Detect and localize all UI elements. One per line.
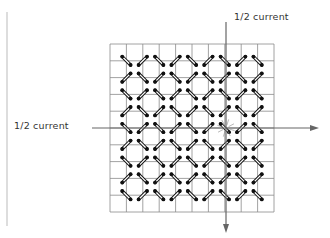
core-dot [211,80,215,84]
core-dot [120,88,124,92]
core-dot [235,97,239,101]
core-dot [194,164,198,168]
core-dot [235,164,239,168]
core-dot [244,181,248,185]
core-dot [137,130,141,134]
selected-core-burst [229,124,234,127]
core-dot [145,147,149,151]
core-dot [202,72,206,76]
core-dot [129,72,133,76]
core-dot [137,105,141,109]
core-dot [219,55,223,59]
core-dot [219,88,223,92]
core-dot [227,198,231,202]
selected-core-burst [229,129,235,131]
arrow-down-icon [223,224,229,233]
core-dot [194,63,198,67]
core-dot [170,72,174,76]
core-dot [202,130,206,134]
core-dot [235,72,239,76]
core-dot [260,63,264,67]
core-dot [260,164,264,168]
core-dot [260,198,264,202]
core-dot [153,156,157,160]
core-dot [145,88,149,92]
core-dot [145,156,149,160]
core-dot [244,114,248,118]
core-dot [170,198,174,202]
core-dot [129,164,133,168]
core-dot [202,172,206,176]
core-dot [235,198,239,202]
core-dot [178,88,182,92]
core-dot [129,198,133,202]
core-dot [202,164,206,168]
core-dot [244,88,248,92]
core-dot [227,164,231,168]
core-dot [186,156,190,160]
core-dot [202,139,206,143]
core-dot [129,63,133,67]
core-dot [219,189,223,193]
core-dot [194,130,198,134]
core-dot [211,189,215,193]
core-dot [186,122,190,126]
core-dot [162,97,166,101]
core-dot [252,80,256,84]
core-dot [153,181,157,185]
core-dot [129,139,133,143]
core-dot [129,97,133,101]
core-dot [260,172,264,176]
core-dot [219,122,223,126]
core-dot [120,181,124,185]
core-dot [227,72,231,76]
core-dot [120,156,124,160]
core-dot [186,114,190,118]
core-dot [162,172,166,176]
core-dot [235,139,239,143]
core-dot [170,63,174,67]
core-dot [170,97,174,101]
core-dot [153,189,157,193]
core-grid [0,0,330,238]
core-dot [202,198,206,202]
core-dot [129,172,133,176]
core-dot [153,88,157,92]
core-dot [227,139,231,143]
core-dot [186,55,190,59]
core-dot [162,164,166,168]
core-dot [120,55,124,59]
core-dot [244,189,248,193]
core-dot [252,88,256,92]
core-dot [219,114,223,118]
core-dot [252,114,256,118]
core-dot [252,189,256,193]
core-dot [120,147,124,151]
core-dot [178,156,182,160]
core-dot [211,147,215,151]
core-dot [137,63,141,67]
core-dot [260,139,264,143]
core-dot [235,130,239,134]
core-dot [120,189,124,193]
core-dot [219,147,223,151]
core-dot [170,105,174,109]
core-dot [252,181,256,185]
core-dot [153,55,157,59]
core-dot [202,97,206,101]
core-dot [235,172,239,176]
core-dot [211,156,215,160]
core-dot [194,105,198,109]
core-dot [145,55,149,59]
core-dot [227,172,231,176]
core-dot [186,88,190,92]
core-dot [244,122,248,126]
core-dot [137,198,141,202]
core-dot [137,72,141,76]
core-dot [162,130,166,134]
core-dot [162,198,166,202]
core-dot [145,122,149,126]
core-dot [129,105,133,109]
core-dot [219,181,223,185]
core-dot [211,114,215,118]
